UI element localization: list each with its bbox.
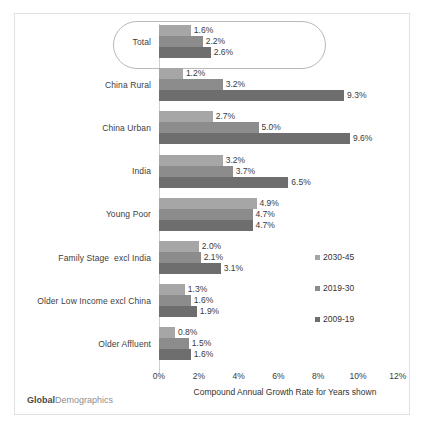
brand-logo: GlobalDemographics bbox=[27, 395, 113, 405]
category-label-older-affluent: Older Affluent bbox=[15, 339, 151, 349]
bar-2019-30 bbox=[159, 36, 203, 47]
brand-part-global: Global bbox=[27, 395, 55, 405]
bar-value-label: 4.7% bbox=[253, 209, 275, 220]
x-axis-ticks: 0%2%4%6%8%10%12% bbox=[15, 371, 411, 387]
bar-value-label: 2.7% bbox=[213, 111, 235, 122]
legend-item-2030-45[interactable]: 2030-45 bbox=[315, 252, 354, 262]
x-tick-label: 2% bbox=[193, 371, 205, 381]
category-label-china-urban: China Urban bbox=[15, 123, 151, 133]
bar-value-label: 3.1% bbox=[221, 263, 243, 274]
legend-item-2019-30[interactable]: 2019-30 bbox=[315, 283, 354, 293]
bar-value-label: 5.0% bbox=[259, 122, 281, 133]
category-label-china-rural: China Rural bbox=[15, 80, 151, 90]
x-tick-label: 10% bbox=[349, 371, 366, 381]
legend-swatch-icon bbox=[315, 255, 320, 260]
brand-part-demographics: Demographics bbox=[55, 395, 113, 405]
bar-value-label: 0.8% bbox=[175, 327, 197, 338]
bar-value-label: 2.1% bbox=[201, 252, 223, 263]
bar-2019-30 bbox=[159, 166, 233, 177]
bar-value-label: 2.2% bbox=[203, 36, 225, 47]
bar-2030-45 bbox=[159, 241, 199, 252]
bar-2009-19 bbox=[159, 306, 197, 317]
category-label-family-stage-excl-india: Family Stage excl India bbox=[15, 253, 151, 263]
bar-value-label: 2.0% bbox=[199, 241, 221, 252]
bar-value-label: 1.5% bbox=[189, 338, 211, 349]
legend-label: 2030-45 bbox=[323, 252, 354, 262]
legend-label: 2019-30 bbox=[323, 283, 354, 293]
bar-2009-19 bbox=[159, 263, 221, 274]
x-tick-label: 8% bbox=[312, 371, 324, 381]
x-tick-label: 0% bbox=[153, 371, 165, 381]
x-tick-label: 4% bbox=[232, 371, 244, 381]
bar-2009-19 bbox=[159, 349, 191, 360]
bar-value-label: 6.5% bbox=[288, 177, 310, 188]
bar-2009-19 bbox=[159, 177, 288, 188]
bar-2019-30 bbox=[159, 122, 259, 133]
bar-2019-30 bbox=[159, 252, 201, 263]
bar-2030-45 bbox=[159, 155, 223, 166]
legend-label: 2009-19 bbox=[323, 314, 354, 324]
category-label-older-low-income-excl-china: Older Low Income excl China bbox=[15, 296, 151, 306]
bar-2009-19 bbox=[159, 47, 211, 58]
bar-2009-19 bbox=[159, 220, 253, 231]
x-tick-label: 12% bbox=[389, 371, 406, 381]
bar-value-label: 4.7% bbox=[253, 220, 275, 231]
chart-frame: 1.6%2.2%2.6%1.2%3.2%9.3%2.7%5.0%9.6%3.2%… bbox=[14, 13, 410, 415]
bar-value-label: 2.6% bbox=[211, 47, 233, 58]
bar-2009-19 bbox=[159, 90, 344, 101]
bar-value-label: 1.6% bbox=[191, 295, 213, 306]
bar-2030-45 bbox=[159, 25, 191, 36]
bar-value-label: 1.6% bbox=[191, 25, 213, 36]
category-label-total: Total bbox=[15, 37, 151, 47]
bar-value-label: 1.6% bbox=[191, 349, 213, 360]
bar-2030-45 bbox=[159, 68, 183, 79]
bar-2019-30 bbox=[159, 209, 253, 220]
category-label-young-poor: Young Poor bbox=[15, 209, 151, 219]
bar-value-label: 1.9% bbox=[197, 306, 219, 317]
bar-value-label: 9.3% bbox=[344, 90, 366, 101]
x-tick-label: 6% bbox=[272, 371, 284, 381]
bar-value-label: 1.2% bbox=[183, 68, 205, 79]
legend-item-2009-19[interactable]: 2009-19 bbox=[315, 314, 354, 324]
bar-2019-30 bbox=[159, 79, 223, 90]
bar-2019-30 bbox=[159, 338, 189, 349]
bar-value-label: 4.9% bbox=[257, 198, 279, 209]
bar-value-label: 3.7% bbox=[233, 166, 255, 177]
bar-2030-45 bbox=[159, 284, 185, 295]
bar-2009-19 bbox=[159, 133, 350, 144]
bar-value-label: 3.2% bbox=[223, 155, 245, 166]
legend-swatch-icon bbox=[315, 286, 320, 291]
bar-2030-45 bbox=[159, 198, 257, 209]
chart-plot-area: 1.6%2.2%2.6%1.2%3.2%9.3%2.7%5.0%9.6%3.2%… bbox=[15, 14, 411, 416]
category-label-india: India bbox=[15, 166, 151, 176]
legend-swatch-icon bbox=[315, 317, 320, 322]
bar-value-label: 1.3% bbox=[185, 284, 207, 295]
x-axis-title: Compound Annual Growth Rate for Years sh… bbox=[159, 387, 411, 397]
bar-2030-45 bbox=[159, 327, 175, 338]
bar-2030-45 bbox=[159, 111, 213, 122]
bar-2019-30 bbox=[159, 295, 191, 306]
bar-value-label: 3.2% bbox=[223, 79, 245, 90]
bar-value-label: 9.6% bbox=[350, 133, 372, 144]
